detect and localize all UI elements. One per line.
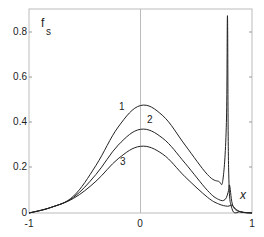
- y-axis-label-subscript: s: [46, 26, 51, 37]
- y-tick-label: 0.6: [13, 71, 27, 82]
- curve-label-1: 1: [119, 101, 125, 112]
- x-axis-label: x: [239, 188, 247, 202]
- y-axis-label: f: [41, 16, 45, 30]
- y-tick-label: 0.8: [13, 26, 27, 37]
- x-tick-label: 0: [137, 218, 143, 229]
- x-tick-label: -1: [25, 218, 34, 229]
- curve-label-2: 2: [147, 114, 153, 125]
- y-tick-label: 0.2: [13, 161, 27, 172]
- y-tick-label: 0.4: [13, 116, 27, 127]
- chart: 0.8 0.6 0.4 0.2 0 -1 0 1 f s x 1 2 3: [0, 0, 264, 237]
- x-tick-label: 1: [249, 218, 255, 229]
- y-tick-label: 0: [21, 207, 27, 218]
- curve-label-3: 3: [120, 156, 126, 167]
